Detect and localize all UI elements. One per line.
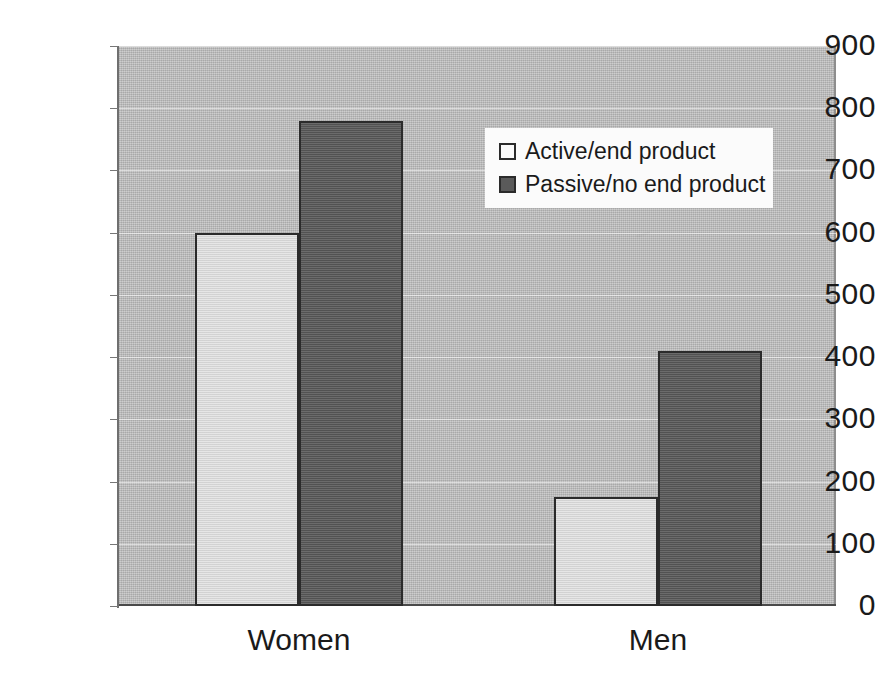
bar-men-series-2 bbox=[658, 351, 762, 606]
y-axis-tick-label: 0 bbox=[780, 590, 876, 620]
legend-swatch-passive-icon bbox=[499, 176, 516, 193]
y-axis-tick-label: 300 bbox=[780, 403, 876, 433]
y-axis-tick bbox=[110, 482, 118, 483]
bar-women-series-1 bbox=[195, 233, 299, 606]
legend-label: Passive/no end product bbox=[525, 173, 765, 196]
y-axis-tick-label: 600 bbox=[780, 217, 876, 247]
y-axis-tick bbox=[110, 108, 118, 109]
gridline bbox=[118, 108, 836, 109]
y-axis-tick-label: 200 bbox=[780, 466, 876, 496]
y-axis-tick-label: 100 bbox=[780, 528, 876, 558]
plot-right-border bbox=[834, 46, 836, 606]
gridline bbox=[118, 46, 836, 47]
y-axis-tick bbox=[110, 544, 118, 545]
y-axis-tick bbox=[110, 606, 118, 607]
y-axis-tick bbox=[110, 295, 118, 296]
chart-legend: Active/end product Passive/no end produc… bbox=[485, 128, 773, 208]
bar-chart: 9008007006005004003002001000 WomenMen Ac… bbox=[0, 0, 876, 700]
y-axis-tick-label: 800 bbox=[780, 92, 876, 122]
y-axis-tick-label: 400 bbox=[780, 341, 876, 371]
x-axis-category-label: Men bbox=[548, 624, 768, 656]
bar-men-series-1 bbox=[554, 497, 658, 606]
y-axis-tick-label: 900 bbox=[780, 30, 876, 60]
y-axis-tick bbox=[110, 233, 118, 234]
legend-swatch-active-icon bbox=[499, 143, 516, 160]
y-axis-tick bbox=[110, 46, 118, 47]
x-axis-category-label: Women bbox=[189, 624, 409, 656]
y-axis-tick bbox=[110, 419, 118, 420]
legend-item: Passive/no end product bbox=[499, 168, 773, 201]
y-axis-tick bbox=[110, 357, 118, 358]
y-axis-line bbox=[117, 46, 119, 608]
legend-item: Active/end product bbox=[499, 135, 773, 168]
legend-label: Active/end product bbox=[525, 140, 716, 163]
y-axis-tick-label: 500 bbox=[780, 279, 876, 309]
y-axis-tick-label: 700 bbox=[780, 154, 876, 184]
y-axis-tick bbox=[110, 170, 118, 171]
bar-women-series-2 bbox=[299, 121, 403, 606]
